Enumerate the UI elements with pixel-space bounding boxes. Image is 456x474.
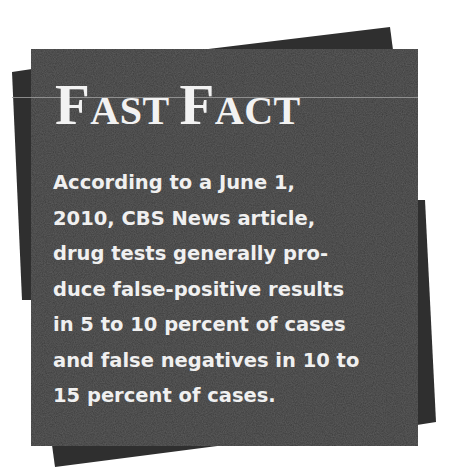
- back-sheet-bottom: [52, 445, 225, 467]
- back-sheet-top: [200, 27, 393, 50]
- body-line: in 5 to 10 percent of cases: [53, 307, 403, 343]
- body-line: duce false-positive results: [53, 272, 403, 308]
- back-sheet-right: [417, 200, 436, 425]
- body-line: and false negatives in 10 to: [53, 343, 403, 379]
- back-sheet-left: [12, 69, 32, 300]
- body-line: According to a June 1,: [53, 165, 403, 201]
- fast-fact-callout: FAST FACT According to a June 1, 2010, C…: [0, 0, 456, 474]
- title-initial-f: F: [55, 73, 90, 136]
- callout-title: FAST FACT: [55, 76, 301, 133]
- body-line: 15 percent of cases.: [53, 378, 403, 414]
- title-initial-f2: F: [179, 73, 214, 136]
- title-word-act: ACT: [215, 88, 301, 133]
- title-word-ast: AST: [90, 88, 169, 133]
- body-line: drug tests generally pro-: [53, 236, 403, 272]
- body-line: 2010, CBS News article,: [53, 201, 403, 237]
- callout-body: According to a June 1, 2010, CBS News ar…: [53, 165, 403, 414]
